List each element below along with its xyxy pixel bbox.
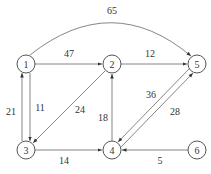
weight-6-4: 5 — [158, 155, 163, 166]
graph-canvas: 65 47 12 21 11 24 18 36 28 14 5 1 2 5 3 — [0, 0, 211, 174]
node-1: 1 — [17, 55, 35, 73]
node-2: 2 — [103, 55, 121, 73]
node-label: 6 — [195, 145, 200, 156]
edge-4-5 — [121, 73, 193, 147]
node-3: 3 — [17, 141, 35, 159]
edge-1-5 — [30, 23, 191, 56]
node-label: 4 — [110, 145, 115, 156]
weight-4-2: 18 — [98, 112, 108, 123]
node-label: 2 — [110, 59, 115, 70]
node-label: 5 — [195, 59, 200, 70]
node-5: 5 — [188, 55, 206, 73]
weight-4-5: 28 — [170, 106, 180, 117]
weight-1-5: 65 — [107, 5, 117, 16]
node-label: 3 — [24, 145, 29, 156]
weight-3-4: 14 — [59, 155, 69, 166]
weight-1-3: 11 — [35, 102, 45, 113]
node-4: 4 — [103, 141, 121, 159]
weight-5-4: 36 — [146, 89, 156, 100]
node-6: 6 — [188, 141, 206, 159]
node-label: 1 — [24, 59, 29, 70]
weight-1-2: 47 — [64, 48, 74, 59]
weight-2-5: 12 — [145, 48, 155, 59]
weight-2-3: 24 — [75, 104, 85, 115]
weight-3-1: 21 — [6, 106, 16, 117]
